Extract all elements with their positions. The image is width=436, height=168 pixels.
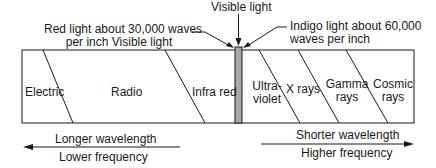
right-arrow-top-label: Shorter wavelength <box>296 129 399 142</box>
red-light-line2: per inch Visible light <box>44 36 194 49</box>
band-cosmic-line2: rays <box>370 91 416 104</box>
right-arrow-bottom-label: Higher frequency <box>301 147 392 160</box>
indigo-light-line2: waves per inch <box>290 33 421 46</box>
red-light-label: Red light about 30,000 waves per inch Vi… <box>44 23 194 49</box>
band-ultraviolet-line2: violet <box>247 93 287 106</box>
left-arrowhead <box>23 144 33 150</box>
indigo-light-label: Indigo light about 60,000 waves per inch <box>290 20 421 46</box>
band-gamma-line2: rays <box>322 91 372 104</box>
indigo-light-arrowhead <box>243 42 251 48</box>
band-xrays: X rays <box>286 83 320 96</box>
band-radio: Radio <box>111 86 142 99</box>
band-infrared: Infra red <box>192 86 237 99</box>
red-light-arrowhead <box>226 42 234 48</box>
visible-light-label: Visible light <box>211 1 271 14</box>
band-gamma: Gamma rays <box>322 78 372 104</box>
band-cosmic: Cosmic rays <box>370 78 416 104</box>
band-ultraviolet: Ultra- violet <box>247 80 287 106</box>
visible-light-arrowhead <box>236 38 242 46</box>
indigo-light-leader <box>247 27 287 46</box>
left-arrow-bottom-label: Lower frequency <box>59 151 148 164</box>
right-arrowhead <box>404 141 414 147</box>
left-arrow-top-label: Longer wavelength <box>55 133 156 146</box>
band-electric: Electric <box>25 86 64 99</box>
